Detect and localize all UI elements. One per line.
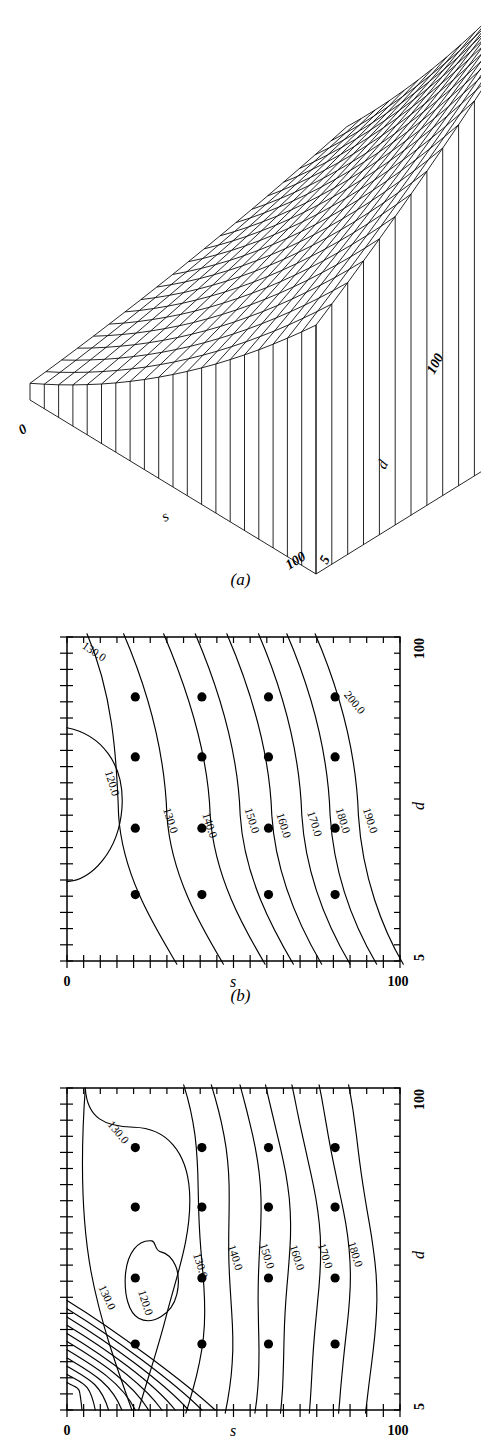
panel-a-surface-plot: 0 s 100 5 d 100 (a) bbox=[0, 30, 481, 605]
data-point-marker bbox=[131, 890, 140, 899]
contour-corner-bundle-6 bbox=[67, 1333, 162, 1410]
data-point-marker bbox=[331, 1339, 340, 1348]
data-point-marker bbox=[331, 752, 340, 761]
contour-level-label: 200.0 bbox=[342, 689, 368, 717]
contour-line-150 bbox=[240, 1085, 261, 1413]
panel-a-s-axis-min-label: 0 bbox=[16, 421, 30, 437]
contour-level-label: 130.0 bbox=[161, 806, 180, 835]
contour-line-170 bbox=[227, 634, 322, 964]
data-point-marker bbox=[331, 1203, 340, 1212]
panel-a-s-axis-label: s bbox=[158, 508, 172, 525]
contour-level-label: 150.0 bbox=[258, 1242, 277, 1271]
contour-corner-bundle-8 bbox=[67, 1317, 189, 1410]
contour-level-label: 170.0 bbox=[305, 810, 324, 839]
data-point-marker bbox=[264, 1273, 273, 1282]
panel-b-axis-ticks bbox=[60, 637, 400, 968]
contour-level-label: 120.0 bbox=[136, 1288, 155, 1317]
data-point-marker bbox=[331, 824, 340, 833]
data-point-marker bbox=[264, 1143, 273, 1152]
panel-c-contour-plot: 130.0130.0120.0130.0140.0150.0160.0170.0… bbox=[0, 1045, 481, 1440]
surface-mesh-rows bbox=[30, 0, 481, 385]
panel-a-d-axis-min-label: 5 bbox=[316, 553, 333, 566]
panel-b-y-axis-label: d bbox=[410, 801, 427, 810]
data-point-marker bbox=[131, 1203, 140, 1212]
contour-level-label: 120.0 bbox=[103, 769, 122, 798]
contour-level-label: 160.0 bbox=[288, 1243, 307, 1272]
data-point-marker bbox=[197, 1339, 206, 1348]
data-point-marker bbox=[197, 824, 206, 833]
data-point-marker bbox=[331, 692, 340, 701]
panel-c-y-max-label: 100 bbox=[412, 1089, 427, 1110]
figure-container: 0 s 100 5 d 100 (a) 130.0120.0130.0140.0… bbox=[0, 0, 481, 1440]
panel-b-y-max-label: 100 bbox=[412, 638, 427, 659]
surface-skirt-walls bbox=[30, 0, 481, 574]
data-point-marker bbox=[131, 1273, 140, 1282]
contour-level-label: 190.0 bbox=[361, 806, 380, 835]
panel-b-contour-lines bbox=[67, 634, 403, 964]
contour-level-label: 180.0 bbox=[346, 1240, 365, 1269]
data-point-marker bbox=[197, 752, 206, 761]
contour-corner-bundle-9 bbox=[67, 1309, 202, 1410]
contour-level-label: 160.0 bbox=[274, 811, 293, 840]
data-point-marker bbox=[331, 890, 340, 899]
data-point-marker bbox=[197, 692, 206, 701]
panel-b-plot-frame bbox=[67, 637, 400, 961]
panel-b-data-points bbox=[131, 692, 340, 899]
panel-c-x-max-label: 100 bbox=[388, 1423, 409, 1438]
data-point-marker bbox=[131, 692, 140, 701]
data-point-marker bbox=[197, 890, 206, 899]
panel-b-contour-plot: 130.0120.0130.0140.0150.0160.0170.0180.0… bbox=[0, 620, 481, 1040]
contour-level-label: 130.0 bbox=[105, 1118, 131, 1146]
panel-c-y-min-label: 5 bbox=[412, 1403, 427, 1410]
contour-level-label: 130.0 bbox=[96, 1283, 118, 1312]
data-point-marker bbox=[264, 824, 273, 833]
data-point-marker bbox=[264, 692, 273, 701]
panel-c-y-axis-label: d bbox=[410, 1250, 427, 1259]
panel-c-x-axis-label: s bbox=[230, 1422, 236, 1439]
contour-line-190 bbox=[287, 634, 377, 964]
contour-line-120 bbox=[67, 728, 122, 882]
contour-c-svg: 130.0130.0120.0130.0140.0150.0160.0170.0… bbox=[0, 1045, 481, 1440]
data-point-marker bbox=[331, 1273, 340, 1282]
contour-line-130 bbox=[87, 634, 177, 964]
panel-c-x-min-label: 0 bbox=[64, 1423, 71, 1438]
contour-line-140 bbox=[124, 634, 224, 964]
data-point-marker bbox=[131, 752, 140, 761]
surface-mesh-cols bbox=[30, 0, 481, 385]
contour-corner-bundle-0 bbox=[67, 1383, 82, 1410]
contour-line-180 bbox=[259, 634, 351, 964]
data-point-marker bbox=[131, 1339, 140, 1348]
panel-a-s-axis-max-label: 100 bbox=[283, 549, 309, 573]
contour-line-130-outer bbox=[85, 1088, 190, 1410]
panel-a-caption: (a) bbox=[0, 570, 481, 590]
panel-b-caption: (b) bbox=[0, 986, 481, 1006]
contour-line-160 bbox=[195, 634, 293, 964]
data-point-marker bbox=[331, 1143, 340, 1152]
contour-level-label: 170.0 bbox=[316, 1242, 335, 1271]
data-point-marker bbox=[197, 1143, 206, 1152]
data-point-marker bbox=[197, 1203, 206, 1212]
contour-line-200 bbox=[315, 634, 403, 964]
contour-b-svg: 130.0120.0130.0140.0150.0160.0170.0180.0… bbox=[0, 620, 481, 1040]
surface-plot-svg: 0 s 100 5 d 100 bbox=[0, 30, 481, 605]
data-point-marker bbox=[197, 1273, 206, 1282]
surface-wireframe-mesh bbox=[30, 0, 481, 385]
contour-line-130-inner bbox=[184, 1085, 205, 1413]
panel-a-d-axis-label: d bbox=[374, 457, 392, 472]
data-point-marker bbox=[264, 1339, 273, 1348]
contour-level-label: 150.0 bbox=[243, 806, 262, 835]
contour-level-label: 130.0 bbox=[80, 639, 108, 664]
data-point-marker bbox=[131, 824, 140, 833]
panel-b-y-min-label: 5 bbox=[412, 954, 427, 961]
data-point-marker bbox=[264, 1203, 273, 1212]
data-point-marker bbox=[131, 1143, 140, 1152]
data-point-marker bbox=[264, 752, 273, 761]
data-point-marker bbox=[264, 890, 273, 899]
surface-skirt-lines bbox=[30, 0, 481, 574]
